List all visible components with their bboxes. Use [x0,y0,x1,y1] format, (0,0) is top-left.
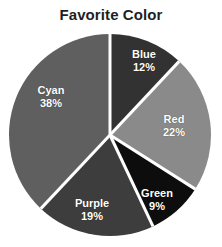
pie-chart-canvas [0,0,222,247]
pie-label-blue: Blue12% [132,48,156,73]
pie-label-name: Red [163,113,185,126]
pie-label-name: Green [141,187,173,200]
pie-label-name: Purple [75,197,109,210]
pie-label-value: 22% [163,125,185,138]
pie-label-value: 9% [141,199,173,212]
pie-label-value: 19% [75,209,109,222]
pie-label-cyan: Cyan38% [38,84,65,109]
pie-label-name: Cyan [38,84,65,97]
pie-label-red: Red22% [163,113,185,138]
pie-label-green: Green9% [141,187,173,212]
pie-label-value: 38% [38,96,65,109]
pie-label-purple: Purple19% [75,197,109,222]
pie-label-value: 12% [132,60,156,73]
pie-chart-figure: Favorite Color Blue12%Red22%Green9%Purpl… [0,0,222,247]
pie-label-name: Blue [132,48,156,61]
